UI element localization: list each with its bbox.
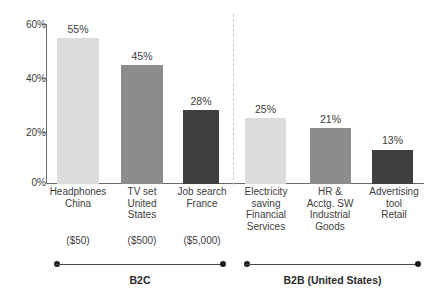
- group-label-b2b: B2B (United States): [245, 274, 420, 286]
- bar-value-6: 13%: [358, 135, 427, 146]
- plot-area: 60% 40% 20% 0% 55% 45%: [0, 0, 433, 297]
- bracket-dot-right-b2b: [415, 261, 421, 267]
- bar-value-1: 55%: [43, 24, 113, 35]
- bar-group-2: 45%: [121, 25, 163, 184]
- bracket-dot-right-b2c: [220, 261, 226, 267]
- bracket-line-b2c: [55, 264, 225, 265]
- price-label-2: ($500): [112, 235, 172, 246]
- bar-group-3: 28%: [183, 25, 219, 184]
- bar-rect-3: [183, 110, 219, 184]
- bar-group-4: 25%: [245, 25, 286, 184]
- category-label-2: TV set United States: [112, 186, 172, 221]
- bar-value-4: 25%: [231, 104, 300, 115]
- bar-chart: 60% 40% 20% 0% 55% 45%: [0, 0, 433, 297]
- bracket-line-b2b: [245, 264, 420, 265]
- bar-rect-2: [121, 65, 163, 184]
- bar-group-5: 21%: [310, 25, 351, 184]
- category-label-1: Headphones China: [46, 186, 110, 209]
- bar-rect-1: [57, 38, 99, 184]
- bar-rect-6: [372, 150, 413, 185]
- bar-value-3: 28%: [169, 96, 233, 107]
- bar-value-2: 45%: [107, 51, 177, 62]
- category-label-6: Advertising tool Retail: [362, 186, 426, 221]
- category-label-4: Electricity saving Financial Services: [236, 186, 296, 232]
- bar-rect-4: [245, 118, 286, 184]
- bars-layer: 55% 45% 28% 25% 21% 13%: [0, 0, 433, 184]
- bar-group-6: 13%: [372, 25, 413, 184]
- bar-group-1: 55%: [57, 25, 99, 184]
- group-bracket-b2b: [245, 260, 420, 270]
- group-label-b2c: B2C: [55, 274, 225, 286]
- bar-rect-5: [310, 128, 351, 184]
- bar-value-5: 21%: [296, 114, 365, 125]
- group-bracket-b2c: [55, 260, 225, 270]
- category-label-5: HR & Acctg. SW Industrial Goods: [298, 186, 362, 232]
- price-label-1: ($50): [46, 235, 110, 246]
- price-label-3: ($5,000): [172, 235, 232, 246]
- category-label-3: Job search France: [172, 186, 232, 209]
